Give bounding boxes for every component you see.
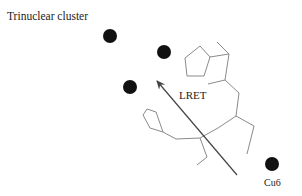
lret-diagram: Trinuclear cluster LRET Cu6 <box>0 0 302 196</box>
cu-atom-1 <box>103 29 117 43</box>
lower-pentagon-ring <box>143 109 163 132</box>
ligand-branch-left <box>208 80 225 84</box>
upper-pentagon-ring <box>185 46 210 76</box>
cu6-atom <box>265 157 279 171</box>
ligand-branch-bottom <box>197 138 207 165</box>
ligand-branch-top <box>217 42 229 54</box>
ligand-chain-lower <box>163 116 236 139</box>
trinuclear-cluster-label: Trinuclear cluster <box>7 10 88 22</box>
ligand-chain <box>210 54 254 154</box>
cu-atom-3 <box>123 80 137 94</box>
lret-label: LRET <box>179 89 207 101</box>
ligand-skeleton <box>143 42 254 165</box>
cu-atom-2 <box>157 45 171 59</box>
cu6-label: Cu6 <box>264 177 281 189</box>
diagram-canvas <box>0 0 302 196</box>
